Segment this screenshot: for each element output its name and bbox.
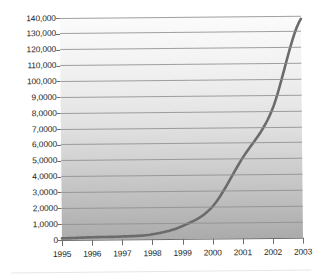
y-axis-tick-label: 120,000 bbox=[0, 45, 56, 54]
y-axis-tick-label: 8,0000 bbox=[0, 109, 57, 118]
y-axis-tick-label: 0 bbox=[0, 235, 58, 244]
line-chart-figure: 01,00002,00003,00004,00005,00006,00007,0… bbox=[0, 0, 320, 275]
y-axis-labels: 01,00002,00003,00004,00005,00006,00007,0… bbox=[0, 18, 58, 241]
x-axis-tick-mark bbox=[92, 240, 93, 246]
page-rule bbox=[11, 270, 311, 274]
x-axis-tick-mark bbox=[273, 238, 274, 244]
x-axis-tick-mark bbox=[182, 239, 183, 245]
x-axis-tick-label: 1996 bbox=[75, 249, 109, 258]
x-axis-tick-mark bbox=[62, 240, 63, 246]
y-axis-tick-label: 5,0000 bbox=[0, 156, 57, 165]
x-axis-tick-label: 1997 bbox=[105, 249, 139, 258]
x-axis-tick-mark bbox=[152, 239, 153, 245]
x-axis-tick-label: 2001 bbox=[226, 248, 260, 257]
plot-area bbox=[60, 16, 303, 240]
y-axis-tick-label: 7,0000 bbox=[0, 124, 57, 133]
y-axis-tick-label: 1,0000 bbox=[0, 220, 58, 229]
y-axis-tick-label: 9,0000 bbox=[0, 93, 57, 102]
x-axis-tick-label: 1998 bbox=[135, 249, 169, 258]
x-axis-tick-label: 2003 bbox=[286, 247, 320, 256]
x-axis-tick-label: 1999 bbox=[166, 249, 200, 258]
y-axis-tick-label: 6,0000 bbox=[0, 140, 57, 149]
x-axis-tick-label: 2000 bbox=[196, 248, 230, 257]
x-axis-tick-label: 2002 bbox=[256, 248, 290, 257]
x-axis-ticks: 199519961997199819992000200120022003 bbox=[0, 0, 319, 2]
y-axis-tick-label: 110,000 bbox=[0, 61, 56, 70]
x-axis-tick-mark bbox=[243, 238, 244, 244]
y-axis-tick-label: 3,0000 bbox=[0, 188, 58, 197]
y-axis-tick-label: 140,000 bbox=[0, 13, 56, 22]
y-axis-tick-label: 2,0000 bbox=[0, 204, 58, 213]
y-axis-tick-label: 4,0000 bbox=[0, 172, 57, 181]
y-axis-tick-label: 130,000 bbox=[0, 29, 56, 38]
x-axis-tick-mark bbox=[122, 239, 123, 245]
x-axis-tick-label: 1995 bbox=[45, 250, 79, 259]
y-axis-tick-label: 100,000 bbox=[0, 77, 56, 86]
x-axis-tick-mark bbox=[303, 238, 304, 244]
x-axis-tick-mark bbox=[213, 238, 214, 244]
